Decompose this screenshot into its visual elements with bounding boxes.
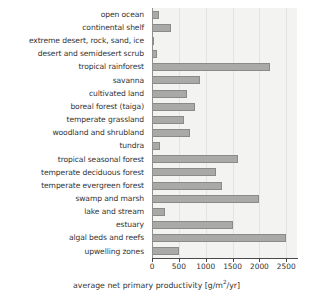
- bar-series: [152, 8, 297, 258]
- x-axis-title: average net primary productivity [g/m2/y…: [0, 282, 313, 290]
- bar: [152, 103, 195, 111]
- x-axis-tick-label: 2500: [277, 263, 296, 270]
- bar-row: [152, 61, 297, 74]
- bar: [152, 90, 187, 98]
- bar: [152, 11, 159, 19]
- bar-chart: open oceancontinental shelfextreme deser…: [0, 0, 313, 301]
- bar: [152, 155, 238, 163]
- bar-row: [152, 126, 297, 139]
- bar: [152, 142, 160, 150]
- bar-row: [152, 74, 297, 87]
- y-axis-line: [152, 8, 153, 258]
- bar: [152, 63, 270, 71]
- category-label: desert and semidesert scrub: [0, 47, 148, 60]
- bar-row: [152, 153, 297, 166]
- category-label: woodland and shrubland: [0, 126, 148, 139]
- plot-area: [152, 8, 297, 258]
- bar-row: [152, 166, 297, 179]
- category-label: tropical rainforest: [0, 61, 148, 74]
- bar-row: [152, 232, 297, 245]
- category-label: extreme desert, rock, sand, ice: [0, 34, 148, 47]
- bar: [152, 247, 179, 255]
- bar: [152, 129, 190, 137]
- bar-row: [152, 219, 297, 232]
- x-axis-line: [152, 258, 298, 259]
- bar: [152, 195, 259, 203]
- bar-row: [152, 21, 297, 34]
- category-label: swamp and marsh: [0, 192, 148, 205]
- category-label: savanna: [0, 74, 148, 87]
- bar-row: [152, 87, 297, 100]
- bar: [152, 208, 165, 216]
- bar: [152, 76, 200, 84]
- x-axis-tick-label: 2000: [250, 263, 269, 270]
- bar-row: [152, 100, 297, 113]
- x-axis-title-suffix: /yr]: [227, 281, 241, 290]
- category-label: temperate evergreen forest: [0, 179, 148, 192]
- bar: [152, 116, 184, 124]
- category-label: lake and stream: [0, 205, 148, 218]
- x-axis-tick-label: 1000: [196, 263, 215, 270]
- bar-row: [152, 8, 297, 21]
- bar-row: [152, 179, 297, 192]
- category-label: estuary: [0, 219, 148, 232]
- category-label: upwelling zones: [0, 245, 148, 258]
- bar: [152, 168, 216, 176]
- bar: [152, 221, 233, 229]
- bar-row: [152, 205, 297, 218]
- bar-row: [152, 192, 297, 205]
- category-label: cultivated land: [0, 87, 148, 100]
- bar-row: [152, 140, 297, 153]
- category-label: temperate deciduous forest: [0, 166, 148, 179]
- x-axis-tick-label: 0: [150, 263, 155, 270]
- bar: [152, 182, 222, 190]
- category-label-column: open oceancontinental shelfextreme deser…: [0, 8, 148, 258]
- category-label: continental shelf: [0, 21, 148, 34]
- category-label: temperate grassland: [0, 113, 148, 126]
- x-axis-title-prefix: average net primary productivity [g/m: [73, 281, 223, 290]
- category-label: tundra: [0, 140, 148, 153]
- category-label: boreal forest (taiga): [0, 100, 148, 113]
- category-label: open ocean: [0, 8, 148, 21]
- bar-row: [152, 245, 297, 258]
- bar-row: [152, 47, 297, 60]
- x-axis-tick-label: 500: [172, 263, 186, 270]
- category-label: tropical seasonal forest: [0, 153, 148, 166]
- bar: [152, 234, 286, 242]
- bar-row: [152, 113, 297, 126]
- category-label: algal beds and reefs: [0, 232, 148, 245]
- x-axis-tick-label: 1500: [223, 263, 242, 270]
- bar-row: [152, 34, 297, 47]
- bar: [152, 24, 171, 32]
